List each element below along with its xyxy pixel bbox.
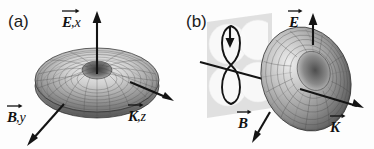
axis-a-E-subscript: ,x <box>71 15 82 30</box>
axis-a-K-arrowhead <box>162 92 174 101</box>
axis-b-B-letter: B <box>237 115 248 131</box>
axis-b-B-arrowhead <box>252 130 261 143</box>
axis-b-B: B <box>237 110 270 143</box>
axis-a-B-line <box>32 104 64 140</box>
axis-a-E-arrowhead <box>93 11 102 23</box>
panel-b: (b) <box>186 9 365 144</box>
physics-figure: (a) <box>0 0 374 149</box>
figure-canvas: (a) <box>0 0 374 149</box>
panel-a-label: (a) <box>8 12 29 31</box>
axis-b-K-letter: K <box>329 119 341 135</box>
panel-b-label: (b) <box>186 12 207 31</box>
axis-b-E-arrowhead <box>309 13 318 25</box>
panel-a: (a) <box>6 9 174 146</box>
axis-a-B-subscript: ,y <box>16 110 27 125</box>
axis-b-E-letter: E <box>288 14 299 30</box>
axis-a-B-vector-bar <box>7 104 23 108</box>
axis-b-K-arrowhead <box>352 99 364 108</box>
axis-a-B: B ,y <box>6 104 64 146</box>
axis-b-E-vector-bar <box>288 9 303 13</box>
axis-a-E-vector-bar <box>62 9 80 13</box>
axis-a-K-subscript: ,z <box>137 109 147 124</box>
